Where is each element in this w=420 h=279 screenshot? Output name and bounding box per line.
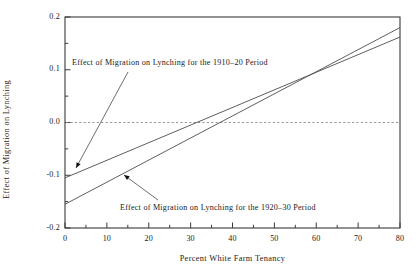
x-tick-label-5: 50 (254, 234, 294, 243)
annotation-arrows (76, 72, 158, 200)
annotation-label-0: Effect of Migration on Lynching for the … (72, 58, 268, 67)
annotation-leader-1 (124, 175, 158, 200)
annotation-leader-0 (76, 72, 128, 168)
data-series (65, 28, 400, 205)
x-tick-label-2: 20 (129, 234, 169, 243)
x-tick-label-0: 0 (45, 234, 85, 243)
chart-figure: Effect of Migration on Lynching Percent … (0, 0, 420, 279)
y-tick-label-2: 0.0 (26, 117, 60, 126)
y-tick-label-0: -0.2 (26, 223, 60, 232)
x-tick-label-3: 30 (171, 234, 211, 243)
annotation-arrowhead-1 (124, 175, 130, 180)
y-tick-label-3: 0.1 (26, 64, 60, 73)
x-tick-label-7: 70 (338, 234, 378, 243)
x-tick-label-8: 80 (380, 234, 420, 243)
y-tick-label-1: -0.1 (26, 170, 60, 179)
annotation-label-1: Effect of Migration on Lynching for the … (120, 203, 316, 212)
series-line-1 (65, 28, 400, 205)
x-tick-label-6: 60 (296, 234, 336, 243)
y-tick-label-4: 0.2 (26, 12, 60, 21)
x-tick-label-1: 10 (87, 234, 127, 243)
x-tick-label-4: 40 (213, 234, 253, 243)
